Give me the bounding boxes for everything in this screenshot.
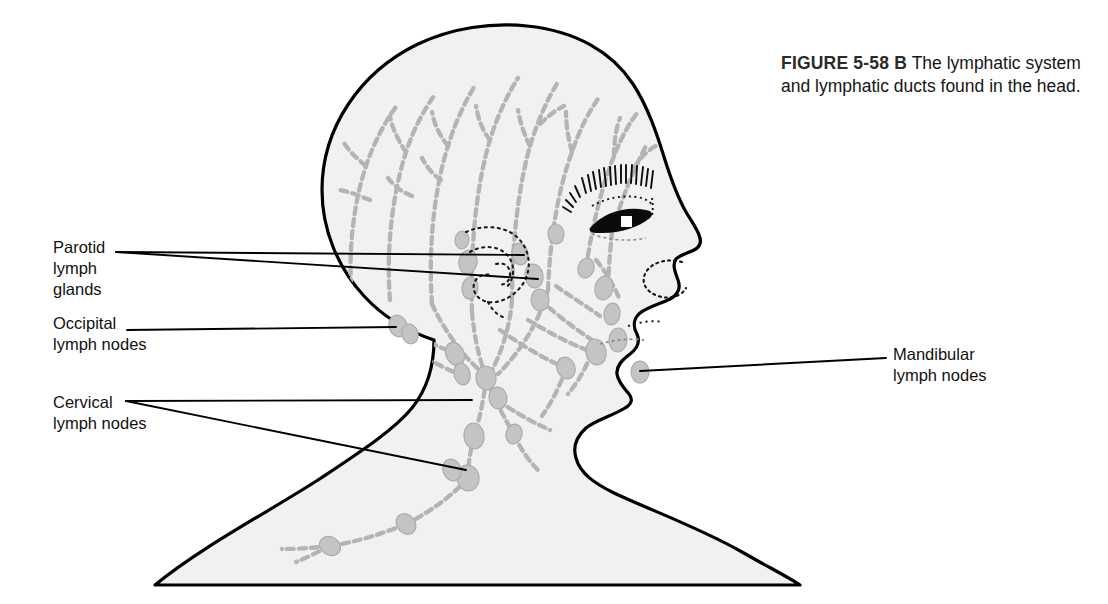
leader-mandibular [640,358,886,371]
label-cervical-lymph-nodes: Cervical lymph nodes [53,392,147,434]
leader-occipital [127,327,396,330]
label-occipital-lymph-nodes: Occipital lymph nodes [53,313,147,355]
figure-container: FIGURE 5-58 B The lymphatic system and l… [0,0,1108,604]
lymph-node-upper-cranial [454,231,469,250]
lymph-node-mandibular-b [631,361,649,383]
pupil-highlight [621,216,632,227]
leader-cervical-upper [126,400,472,401]
label-parotid-lymph-glands: Parotid lymph glands [53,237,105,300]
figure-number: FIGURE 5-58 B [781,53,907,73]
label-mandibular-lymph-nodes: Mandibular lymph nodes [893,344,987,386]
lymph-vessel-occipital-2 [342,318,394,340]
figure-caption: FIGURE 5-58 B The lymphatic system and l… [781,52,1081,99]
